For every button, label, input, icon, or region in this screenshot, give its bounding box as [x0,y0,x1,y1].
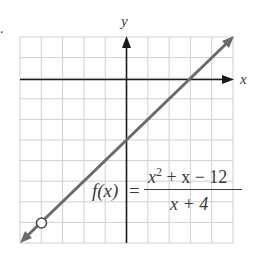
function-label: f(x) = x2 + x − 12 x + 4 [92,165,242,214]
numerator-rest: + x − 12 [162,167,227,187]
function-graph: . x y f(x) = x2 + x − 12 x + 4 [0,0,256,255]
y-axis-label: y [119,13,128,29]
problem-marker: . [0,21,4,36]
x-axis-label: x [239,71,247,87]
x-axis-arrow-icon [222,75,234,84]
numerator: x2 + x − 12 [147,165,227,187]
function-name: f(x) [92,180,118,202]
hole-open-circle [37,218,47,228]
y-axis-arrow-icon [122,36,131,48]
equals-sign: = [129,180,140,201]
numerator-base: x [147,167,156,187]
denominator: x + 4 [169,194,208,214]
